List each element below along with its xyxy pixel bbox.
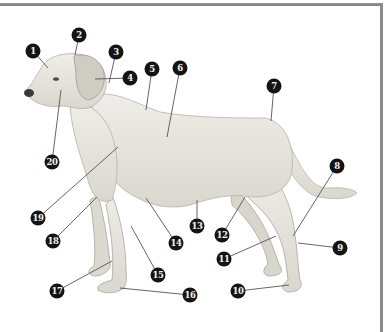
marker-1: 1	[26, 44, 41, 59]
marker-19: 19	[31, 211, 46, 226]
leader-line-18	[53, 197, 97, 241]
dog-eye	[53, 77, 59, 81]
marker-9: 9	[333, 241, 348, 256]
marker-12: 12	[215, 228, 230, 243]
marker-13: 13	[190, 219, 205, 234]
leader-line-16	[120, 288, 190, 295]
marker-5: 5	[145, 62, 160, 77]
marker-7: 7	[267, 79, 282, 94]
marker-11: 11	[217, 252, 232, 267]
marker-3: 3	[109, 45, 124, 60]
marker-14: 14	[169, 236, 184, 251]
marker-2: 2	[72, 28, 87, 43]
marker-18: 18	[46, 234, 61, 249]
leader-line-10	[238, 285, 289, 291]
marker-15: 15	[151, 268, 166, 283]
marker-6: 6	[173, 61, 188, 76]
marker-20: 20	[45, 155, 60, 170]
marker-17: 17	[50, 284, 65, 299]
dog-nose	[24, 89, 34, 97]
marker-8: 8	[330, 159, 345, 174]
marker-16: 16	[183, 288, 198, 303]
marker-10: 10	[231, 284, 246, 299]
marker-4: 4	[123, 71, 138, 86]
dog-body	[91, 94, 292, 207]
